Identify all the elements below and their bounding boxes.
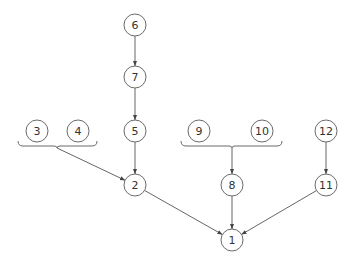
node-8: 8	[221, 174, 243, 196]
node-label: 7	[132, 71, 139, 84]
node-label: 9	[196, 125, 203, 138]
node-label: 6	[132, 19, 139, 32]
node-label: 12	[319, 125, 333, 138]
node-label: 2	[132, 179, 139, 192]
node-3: 3	[26, 120, 48, 142]
node-label: 4	[75, 125, 82, 138]
node-label: 1	[229, 234, 236, 247]
nodes: 123456789101112	[26, 14, 337, 251]
edge-11-to-1	[241, 191, 316, 235]
node-12: 12	[315, 120, 337, 142]
node-6: 6	[124, 14, 146, 36]
node-4: 4	[67, 120, 89, 142]
node-10: 10	[251, 120, 273, 142]
node-2: 2	[124, 174, 146, 196]
node-11: 11	[315, 174, 337, 196]
node-label: 11	[319, 179, 333, 192]
node-7: 7	[124, 66, 146, 88]
node-5: 5	[124, 120, 146, 142]
node-label: 3	[34, 125, 41, 138]
node-label: 10	[255, 125, 269, 138]
edge-2-to-1	[145, 190, 223, 234]
node-9: 9	[188, 120, 210, 142]
bracket-group-3-4	[18, 141, 97, 148]
edge-group-3-4-to-2	[57, 148, 125, 180]
group-brackets	[18, 141, 282, 148]
tree-diagram: 123456789101112	[0, 0, 361, 266]
node-1: 1	[221, 229, 243, 251]
node-label: 8	[229, 179, 236, 192]
node-label: 5	[132, 125, 139, 138]
